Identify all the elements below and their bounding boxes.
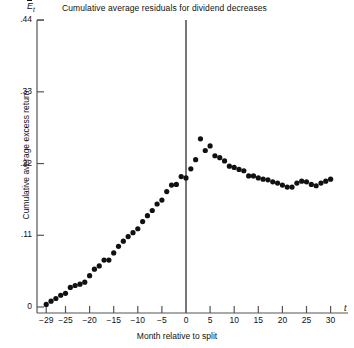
data-point [116,244,121,249]
data-point [314,183,319,188]
data-point [241,168,246,173]
x-tick-label: −5 [149,315,175,325]
y-tick-marks [37,20,44,307]
x-tick-label: −25 [53,315,79,325]
x-axis-symbol: t [344,303,347,313]
data-point [63,291,68,296]
x-axis-title: Month relative to split [0,331,354,341]
data-point [275,181,280,186]
data-point [299,179,304,184]
data-point [159,197,164,202]
data-point [53,296,58,301]
data-point [150,208,155,213]
data-point [164,189,169,194]
data-point [77,282,82,287]
data-point [212,153,217,158]
data-point [97,263,102,268]
x-tick-label: 0 [173,315,199,325]
data-point [323,179,328,184]
data-point [87,273,92,278]
data-point [101,257,106,262]
data-point [232,165,237,170]
data-point [68,285,73,290]
data-point [328,177,333,182]
x-tick-label: 5 [197,315,223,325]
data-point [154,201,159,206]
data-point [285,184,290,189]
data-point [188,166,193,171]
plot-canvas [0,0,354,348]
data-point [145,213,150,218]
data-point [44,302,49,307]
data-point [130,230,135,235]
axes-group [37,20,348,313]
data-point [179,174,184,179]
data-point [58,293,63,298]
x-tick-label: −10 [125,315,151,325]
x-tick-label: 10 [221,315,247,325]
data-point [198,136,203,141]
data-point [48,299,53,304]
data-point [217,155,222,160]
y-tick-label: 0 [6,301,32,311]
x-tick-marks [46,306,330,313]
data-point [294,181,299,186]
data-point [169,182,174,187]
data-point [318,181,323,186]
data-point [203,148,208,153]
data-point [140,219,145,224]
data-point [261,177,266,182]
x-tick-label: −15 [101,315,127,325]
data-point [135,226,140,231]
data-point [251,173,256,178]
data-point [270,179,275,184]
data-point [73,283,78,288]
data-point [256,175,261,180]
x-tick-label: 15 [245,315,271,325]
data-point [111,250,116,255]
data-point [280,182,285,187]
data-point [183,175,188,180]
data-point-group [44,136,334,307]
data-point [126,234,131,239]
data-point [227,164,232,169]
data-point [304,179,309,184]
data-point [82,280,87,285]
data-point [121,239,126,244]
data-point [289,184,294,189]
data-point [246,173,251,178]
data-point [265,177,270,182]
x-tick-label: 30 [318,315,344,325]
data-point [174,182,179,187]
y-axis-title: Cumulative average excess return [21,65,31,245]
data-point [236,167,241,172]
x-tick-label: 25 [294,315,320,325]
data-point [92,267,97,272]
data-point [208,143,213,148]
x-tick-label: −20 [77,315,103,325]
data-point [222,158,227,163]
chart-figure: Et Cumulative average residuals for divi… [0,0,354,348]
y-tick-label: .44 [6,14,32,24]
data-point [106,257,111,262]
x-tick-label: 20 [269,315,295,325]
data-point [309,182,314,187]
data-point [193,157,198,162]
